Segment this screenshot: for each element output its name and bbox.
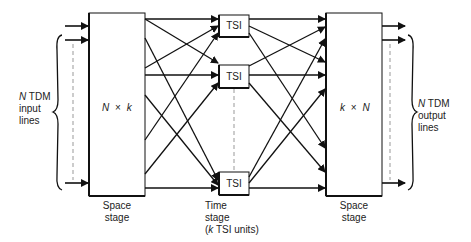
left-to-tsi-links	[145, 19, 218, 188]
input-lines-label: N TDM input lines	[19, 91, 51, 127]
right-brace	[408, 35, 417, 190]
tsi-label-k: TSI	[219, 178, 249, 189]
tsi-label-2: TSI	[219, 71, 249, 82]
left-stage-caption: Space stage	[95, 200, 139, 224]
left-brace	[53, 35, 62, 190]
left-stage-matrix-label: N × k	[102, 102, 132, 113]
right-stage-caption: Space stage	[332, 200, 376, 224]
tsi-to-right-links	[249, 19, 325, 188]
tsi-label-1: TSI	[219, 20, 249, 31]
time-stage-caption: Time stage (k TSI units)	[205, 200, 259, 236]
right-stage-matrix-label: k × N	[340, 102, 370, 113]
output-lines-label: N TDM output lines	[418, 98, 450, 134]
